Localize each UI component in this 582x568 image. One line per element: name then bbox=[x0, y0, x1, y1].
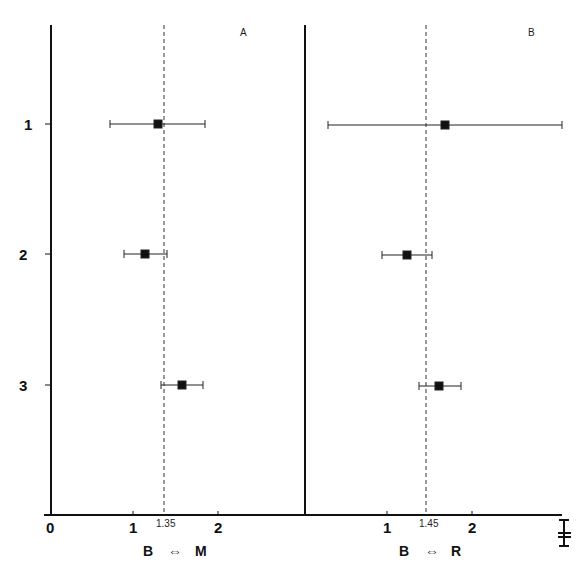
panel-a-row-1 bbox=[110, 120, 205, 128]
xlabel-b-right: R bbox=[451, 543, 461, 559]
panel-a-row-3 bbox=[161, 381, 203, 389]
row-label-1: 1 bbox=[24, 116, 32, 133]
x-tick-label-b-2: 2 bbox=[468, 519, 476, 536]
panel-b-row-3 bbox=[419, 382, 461, 390]
panel-a-row-2 bbox=[124, 250, 167, 258]
point-marker bbox=[403, 251, 411, 259]
ref-label-a: 1.35 bbox=[156, 518, 176, 529]
panel-b-row-2 bbox=[382, 251, 432, 259]
ref-label-b: 1.45 bbox=[419, 518, 439, 529]
panel-label-a: A bbox=[240, 27, 247, 38]
panel-label-b: B bbox=[528, 27, 535, 38]
point-marker bbox=[435, 382, 443, 390]
point-marker bbox=[178, 381, 186, 389]
panel-b-row-1 bbox=[328, 121, 562, 129]
x-tick-label-b-1: 1 bbox=[383, 519, 391, 536]
xlabel-a-right: M bbox=[195, 543, 207, 559]
x-tick-label-a-1: 1 bbox=[129, 519, 137, 536]
xlabel-a-arrow: ⇔ bbox=[168, 543, 182, 559]
row-label-2: 2 bbox=[19, 246, 27, 263]
x-tick-label-a-0: 0 bbox=[46, 519, 54, 536]
point-marker bbox=[141, 250, 149, 258]
point-marker bbox=[441, 121, 449, 129]
xlabel-b-left: B bbox=[399, 543, 409, 559]
forest-plot-chart: 1 2 3 A B 0 1 2 1.35 1 2 1.45 B ⇔ M B ⇔ … bbox=[0, 0, 582, 568]
axis-break-icon bbox=[558, 520, 571, 546]
xlabel-a-left: B bbox=[143, 543, 153, 559]
xlabel-b-arrow: ⇔ bbox=[425, 543, 439, 559]
row-label-3: 3 bbox=[19, 377, 27, 394]
x-tick-label-a-2: 2 bbox=[214, 519, 222, 536]
point-marker bbox=[154, 120, 162, 128]
